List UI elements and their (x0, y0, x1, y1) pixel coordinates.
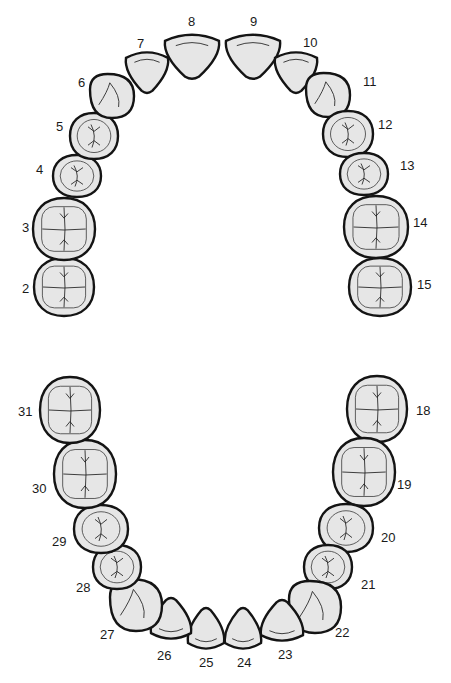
tooth-number-label: 31 (18, 404, 32, 419)
tooth-number-label: 25 (199, 655, 213, 670)
tooth-number-label: 5 (56, 119, 63, 134)
tooth-number-label: 10 (303, 35, 317, 50)
tooth-number-label: 21 (361, 577, 375, 592)
tooth-number-label: 3 (22, 220, 29, 235)
central-incisor-crown-outline (226, 35, 280, 79)
tooth-number-label: 23 (278, 647, 292, 662)
central-incisor-crown-outline (188, 608, 224, 649)
tooth-number-label: 14 (413, 215, 427, 230)
tooth-4[interactable] (53, 155, 101, 197)
tooth-number-label: 7 (137, 36, 144, 51)
tooth-8[interactable] (165, 35, 219, 79)
tooth-number-label: 9 (250, 14, 257, 29)
tooth-25[interactable] (188, 608, 224, 649)
tooth-number-label: 28 (76, 580, 90, 595)
tooth-number-label: 22 (335, 625, 349, 640)
tooth-number-label: 15 (417, 277, 431, 292)
tooth-number-label: 24 (237, 655, 251, 670)
tooth-number-label: 11 (363, 74, 377, 89)
tooth-number-label: 8 (188, 14, 195, 29)
central-incisor-crown-outline (225, 608, 261, 649)
tooth-number-label: 6 (78, 75, 85, 90)
tooth-number-label: 26 (157, 648, 171, 663)
tooth-9[interactable] (226, 35, 280, 79)
tooth-15[interactable] (349, 258, 411, 316)
canine-crown-outline (90, 74, 134, 118)
tooth-14[interactable] (344, 196, 408, 258)
tooth-6[interactable] (90, 74, 134, 118)
tooth-5[interactable] (70, 113, 118, 159)
tooth-18[interactable] (347, 376, 407, 442)
tooth-number-label: 20 (381, 530, 395, 545)
tooth-19[interactable] (333, 438, 395, 506)
tooth-12[interactable] (323, 111, 373, 157)
tooth-30[interactable] (54, 440, 116, 508)
upper-arch: 23456789101112131415 (22, 14, 431, 316)
tooth-number-label: 29 (52, 534, 66, 549)
tooth-number-label: 12 (378, 117, 392, 132)
tooth-31[interactable] (40, 377, 100, 443)
tooth-3[interactable] (33, 198, 95, 260)
tooth-number-label: 27 (100, 627, 114, 642)
tooth-24[interactable] (225, 608, 261, 649)
tooth-29[interactable] (74, 505, 128, 553)
tooth-number-label: 13 (400, 158, 414, 173)
tooth-number-label: 4 (36, 162, 43, 177)
tooth-13[interactable] (340, 153, 388, 195)
tooth-2[interactable] (34, 258, 94, 316)
tooth-number-label: 30 (32, 481, 46, 496)
tooth-number-label: 2 (22, 281, 29, 296)
tooth-number-label: 19 (397, 477, 411, 492)
central-incisor-crown-outline (165, 35, 219, 79)
dental-chart: 23456789101112131415 1819202122232425262… (0, 0, 451, 683)
lower-arch: 1819202122232425262728293031 (18, 376, 430, 670)
tooth-number-label: 18 (416, 403, 430, 418)
